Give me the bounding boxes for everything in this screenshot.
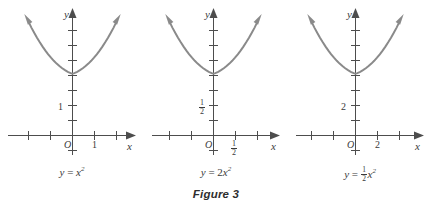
parabola-arrow-3-right — [396, 14, 404, 25]
x-tick-label-2: 1 2 — [231, 140, 237, 159]
parabola-arrow-3-left — [307, 14, 315, 25]
x-axis-arrow-2 — [270, 132, 280, 140]
y-tick-label-2: 1 2 — [199, 99, 205, 118]
y-tick-label-1: 1 — [58, 102, 63, 112]
equation-label-3: y = 12x2 — [288, 166, 432, 182]
x-axis-arrow-3 — [414, 132, 424, 140]
origin-label-2: O — [205, 140, 212, 150]
equation-3-exponent: 2 — [372, 167, 376, 175]
figure-caption: Figure 3 — [0, 188, 432, 200]
x-axis-label-3: x — [415, 141, 420, 152]
origin-label-1: O — [64, 140, 71, 150]
y-axis-label-1: y — [64, 9, 69, 20]
equation-1-exponent: 2 — [81, 165, 85, 173]
y-axis-arrow-1 — [69, 8, 77, 18]
equation-2-exponent: 2 — [228, 165, 232, 173]
x-tick-label-3: 2 — [375, 140, 380, 150]
parabola-arrow-1-right — [113, 14, 121, 25]
y-axis-arrow-2 — [210, 8, 218, 18]
y-tick-label-3: 2 — [341, 102, 346, 112]
equation-label-2: y = 2x2 — [144, 166, 288, 178]
figure-3-illustration: y x O 1 1 y = x2 — [0, 0, 432, 207]
parabola-arrow-2-left — [165, 14, 173, 25]
x-axis-label-1: x — [127, 141, 132, 152]
origin-label-3: O — [347, 140, 354, 150]
parabola-arrow-1-left — [24, 14, 32, 25]
x-tick-label-1: 1 — [92, 140, 97, 150]
parabola-arrow-2-right — [254, 14, 262, 25]
graph-panel-y-equals-x-squared: y x O 1 1 y = x2 — [0, 0, 144, 190]
y-tick-label-2-denominator: 2 — [199, 108, 205, 116]
graph-panel-y-equals-half-x-squared: y x O 2 2 y = 12x2 — [288, 0, 432, 190]
x-tick-label-2-denominator: 2 — [231, 149, 237, 157]
y-axis-label-3: y — [347, 9, 352, 20]
parabola-graph-3 — [288, 0, 432, 190]
parabola-graph-1 — [0, 0, 144, 190]
equation-label-1: y = x2 — [0, 166, 144, 178]
graph-panel-y-equals-2x-squared: y x O 1 2 1 2 y = 2x2 — [144, 0, 288, 190]
x-axis-label-2: x — [271, 141, 276, 152]
y-axis-label-2: y — [205, 9, 210, 20]
y-axis-arrow-3 — [352, 8, 360, 18]
x-axis-arrow-1 — [126, 132, 136, 140]
parabola-graph-2 — [144, 0, 288, 190]
